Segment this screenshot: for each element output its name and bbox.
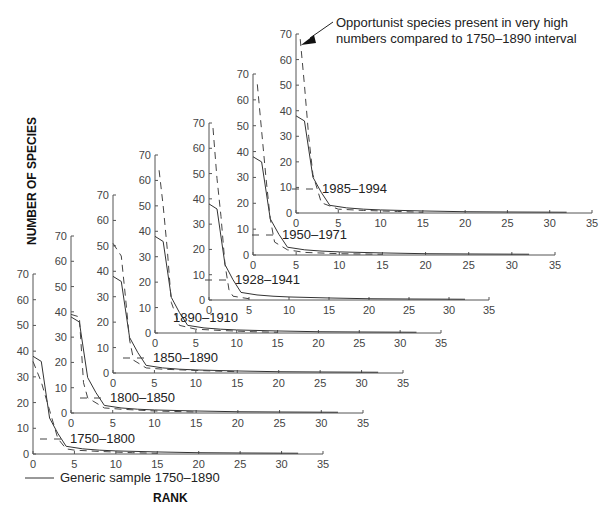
y-tick-label: 30	[55, 331, 67, 343]
x-tick-label: 15	[231, 377, 243, 389]
y-tick-label: 30	[139, 251, 151, 263]
y-tick-label: 20	[280, 156, 292, 168]
x-tick-label: 25	[353, 337, 365, 349]
y-tick-label: 30	[17, 371, 29, 383]
y-tick-label: 10	[97, 342, 109, 354]
x-tick-label: 15	[271, 337, 283, 349]
x-tick-label: 35	[549, 259, 561, 271]
x-tick-label: 15	[376, 259, 388, 271]
chart-panels: 010203040506070051015202530351750–180001…	[17, 28, 598, 470]
y-tick-label: 40	[193, 193, 205, 205]
y-tick-label: 20	[17, 397, 29, 409]
panel-label: 1750–1800	[70, 431, 135, 446]
y-tick-label: 70	[193, 117, 205, 129]
y-tick-label: 40	[139, 225, 151, 237]
x-tick-label: 0	[293, 217, 299, 229]
legend: Generic sample 1750–1890	[25, 470, 220, 485]
rank-abundance-chart: 010203040506070051015202530351750–180001…	[0, 0, 612, 514]
panel-label: 1928–1941	[235, 272, 300, 287]
y-tick-label: 40	[280, 105, 292, 117]
y-tick-label: 10	[280, 181, 292, 193]
y-tick-label: 50	[17, 319, 29, 331]
x-tick-label: 5	[110, 417, 116, 429]
x-tick-label: 5	[246, 304, 252, 316]
x-tick-label: 0	[68, 417, 74, 429]
y-tick-label: 50	[193, 168, 205, 180]
y-tick-label: 10	[55, 382, 67, 394]
x-tick-label: 0	[30, 458, 36, 470]
x-tick-label: 10	[333, 259, 345, 271]
y-tick-label: 40	[97, 265, 109, 277]
x-tick-label: 35	[357, 417, 369, 429]
x-tick-label: 25	[314, 377, 326, 389]
x-axis-title-text: RANK	[153, 491, 188, 505]
y-tick-label: 0	[145, 327, 151, 339]
y-tick-label: 60	[193, 142, 205, 154]
y-tick-label: 0	[103, 367, 109, 379]
y-tick-label: 60	[280, 54, 292, 66]
legend-solid-label: Generic sample 1750–1890	[60, 470, 220, 485]
y-tick-label: 30	[97, 291, 109, 303]
y-axis-title: NUMBER OF SPECIES	[25, 117, 39, 245]
y-tick-label: 20	[97, 316, 109, 328]
y-axis-title-text: NUMBER OF SPECIES	[25, 117, 39, 245]
y-tick-label: 10	[193, 269, 205, 281]
x-tick-label: 20	[273, 377, 285, 389]
x-tick-label: 20	[459, 217, 471, 229]
x-tick-label: 5	[71, 458, 77, 470]
x-tick-label: 20	[419, 259, 431, 271]
x-tick-label: 10	[283, 304, 295, 316]
y-tick-label: 20	[55, 356, 67, 368]
y-tick-label: 70	[280, 28, 292, 40]
y-tick-label: 50	[139, 200, 151, 212]
y-tick-label: 20	[237, 197, 249, 209]
x-tick-label: 25	[273, 417, 285, 429]
x-axis-title: RANK	[153, 491, 188, 505]
x-tick-label: 0	[250, 259, 256, 271]
y-tick-label: 50	[55, 281, 67, 293]
y-tick-label: 50	[237, 120, 249, 132]
x-tick-label: 30	[394, 337, 406, 349]
y-tick-label: 50	[97, 240, 109, 252]
x-tick-label: 10	[110, 458, 122, 470]
x-tick-label: 0	[152, 337, 158, 349]
panel-label: 1985–1994	[322, 181, 387, 196]
y-tick-label: 40	[55, 306, 67, 318]
x-tick-label: 10	[190, 377, 202, 389]
y-tick-label: 70	[97, 189, 109, 201]
x-tick-label: 30	[355, 377, 367, 389]
y-tick-label: 40	[237, 146, 249, 158]
x-tick-label: 5	[293, 259, 299, 271]
x-tick-label: 0	[110, 377, 116, 389]
y-tick-label: 50	[280, 79, 292, 91]
x-tick-label: 10	[231, 337, 243, 349]
y-tick-label: 0	[61, 407, 67, 419]
y-tick-label: 0	[243, 249, 249, 261]
x-tick-label: 30	[315, 417, 327, 429]
y-tick-label: 0	[286, 207, 292, 219]
y-tick-label: 20	[193, 243, 205, 255]
x-tick-label: 30	[443, 304, 455, 316]
y-tick-label: 30	[193, 218, 205, 230]
annotation-line-1: Opportunist species present in very high	[336, 15, 568, 30]
x-tick-label: 25	[463, 259, 475, 271]
x-tick-label: 20	[312, 337, 324, 349]
annotation-line-2: numbers compared to 1750–1890 interval	[336, 31, 577, 46]
y-tick-label: 60	[139, 174, 151, 186]
x-tick-label: 20	[193, 458, 205, 470]
x-tick-label: 20	[232, 417, 244, 429]
x-tick-label: 20	[363, 304, 375, 316]
x-tick-label: 15	[151, 458, 163, 470]
y-tick-label: 60	[97, 214, 109, 226]
x-tick-label: 25	[501, 217, 513, 229]
y-tick-label: 70	[237, 68, 249, 80]
x-tick-label: 35	[317, 458, 329, 470]
x-tick-label: 35	[483, 304, 495, 316]
y-tick-label: 10	[139, 302, 151, 314]
y-tick-label: 70	[139, 149, 151, 161]
x-tick-label: 25	[234, 458, 246, 470]
x-tick-label: 10	[374, 217, 386, 229]
panel-label: 1800–1850	[110, 390, 175, 405]
y-tick-label: 20	[139, 276, 151, 288]
x-tick-label: 30	[275, 458, 287, 470]
